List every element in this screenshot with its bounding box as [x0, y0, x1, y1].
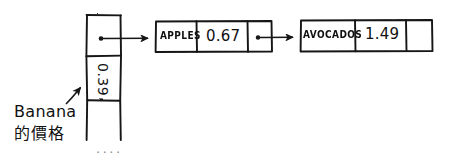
- node-avocados-key: AVOCADOS: [303, 31, 362, 41]
- arrow-bucket-to-apples: [99, 36, 148, 41]
- node-apples-key: APPLES: [160, 32, 201, 42]
- annotation-label-line2: 的價格: [14, 126, 65, 142]
- node-apples-value: 0.67: [206, 29, 240, 44]
- node-apples-next-pointer: [256, 35, 293, 39]
- annotation-label-line1: Banana: [14, 104, 76, 120]
- node-avocados-value: 1.49: [365, 27, 399, 42]
- bucket-slot-value: 0.39: [96, 63, 110, 96]
- bucket-continuation-ellipsis: ....: [96, 142, 123, 155]
- hash-table-diagram: 0.39 .... APPLES 0.67 AVOCADOS 1.49 Bana…: [0, 0, 455, 163]
